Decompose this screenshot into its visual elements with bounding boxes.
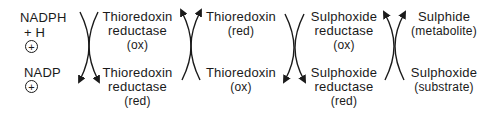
positive-charge-icon: + <box>25 80 38 93</box>
nadph-label: NADPH <box>20 11 67 25</box>
coupling-arrow-4-up <box>385 14 404 80</box>
coupling-arrow-2-up <box>182 12 200 80</box>
node-sulphide-metabolite: Sulphide (metabolite) <box>404 10 484 38</box>
coupling-arrow-3-down <box>285 14 304 80</box>
node-thioredoxin-reductase-red: Thioredoxin reductase (red) <box>100 66 175 108</box>
node-thioredoxin-red: Thioredoxin (red) <box>203 10 279 38</box>
node-thioredoxin-ox: Thioredoxin (ox) <box>203 66 279 94</box>
coupling-arrow-1-down <box>80 12 98 80</box>
node-sulphoxide-substrate: Sulphoxide (substrate) <box>404 66 484 94</box>
positive-charge-icon: + <box>25 40 38 53</box>
node-thioredoxin-reductase-ox: Thioredoxin reductase (ox) <box>100 10 175 52</box>
node-sulphoxide-reductase-red: Sulphoxide reductase (red) <box>306 66 382 108</box>
nadp-label: NADP+ <box>24 66 61 93</box>
node-sulphoxide-reductase-ox: Sulphoxide reductase (ox) <box>306 10 382 52</box>
proton-label: + H+ <box>24 26 45 53</box>
